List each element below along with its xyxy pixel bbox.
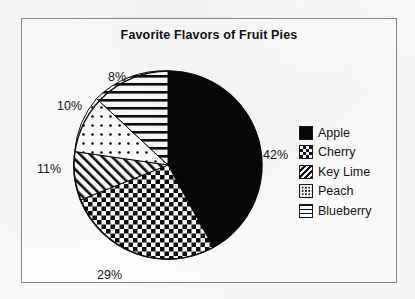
legend-label-peach: Peach [318,184,353,198]
legend-label-key-lime: Key Lime [318,165,370,179]
legend-item-cherry[interactable]: Cherry [299,143,409,163]
pie-value-label-key-lime: 11% [37,162,61,176]
legend-label-apple: Apple [318,126,350,140]
pie-chart [70,67,266,263]
dot-grid-swatch-icon [299,184,313,198]
pie-value-label-blueberry: 8% [108,70,126,84]
legend-label-cherry: Cherry [318,145,356,159]
chart-page: Favorite Flavors of Fruit Pies [0,0,415,299]
legend-item-apple[interactable]: Apple [299,123,409,143]
chart-title: Favorite Flavors of Fruit Pies [22,28,396,42]
solid-black-swatch-icon [299,126,313,140]
checkerboard-swatch-icon [299,145,313,159]
legend-item-blueberry[interactable]: Blueberry [299,201,409,221]
legend-item-peach[interactable]: Peach [299,182,409,202]
pie-value-label-apple: 42% [263,148,288,162]
horizontal-stripes-swatch-icon [299,204,313,218]
legend-item-key-lime[interactable]: Key Lime [299,162,409,182]
pie-value-label-cherry: 29% [97,268,122,282]
chart-frame: Favorite Flavors of Fruit Pies [21,18,397,283]
pie-value-label-peach: 10% [57,99,82,113]
legend-label-blueberry: Blueberry [318,204,372,218]
chart-legend: Apple Cherry Key Lime Peach Blueberry [299,123,409,221]
diagonal-stripes-swatch-icon [299,165,313,179]
